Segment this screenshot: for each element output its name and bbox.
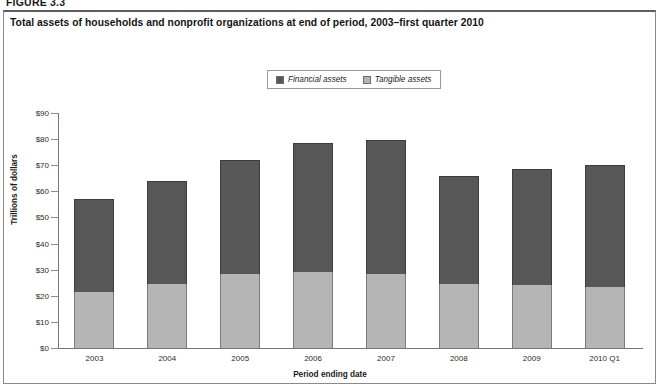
chart-title: Total assets of households and nonprofit… <box>10 17 484 28</box>
x-axis-tick-label: 2006 <box>304 354 322 363</box>
bar-segment-tangible-assets <box>366 274 406 348</box>
y-axis-tick-labels: $90$80$70$60$50$40$30$20$10$0 <box>0 0 49 388</box>
y-axis-tick <box>51 113 58 114</box>
bar-segment-financial-assets <box>74 199 114 292</box>
bar-group <box>74 199 114 348</box>
bar-segment-tangible-assets <box>585 287 625 348</box>
bar-segment-financial-assets <box>147 181 187 284</box>
x-axis-tick-label: 2008 <box>450 354 468 363</box>
bar-group <box>585 165 625 348</box>
bar-group <box>147 181 187 348</box>
legend-swatch-tangible-assets <box>363 76 371 84</box>
bar-group <box>366 140 406 348</box>
bar-group <box>220 160 260 348</box>
y-axis-tick <box>51 139 58 140</box>
y-axis-tick <box>51 270 58 271</box>
y-axis-tick <box>51 191 58 192</box>
plot-area <box>58 113 641 348</box>
bar-segment-financial-assets <box>293 143 333 272</box>
legend-label-tangible-assets: Tangible assets <box>375 75 432 84</box>
bar-segment-tangible-assets <box>439 284 479 348</box>
y-axis-tick-label: $0 <box>3 344 49 353</box>
bar-group <box>512 169 552 348</box>
x-axis-tick-label: 2004 <box>158 354 176 363</box>
legend-entry-financial-assets: Financial assets <box>276 75 347 84</box>
bar-segment-tangible-assets <box>74 292 114 348</box>
bar-segment-tangible-assets <box>512 285 552 348</box>
chart-legend: Financial assets Tangible assets <box>267 70 441 89</box>
bar-segment-financial-assets <box>366 140 406 273</box>
bar-group <box>439 176 479 348</box>
y-axis-tick <box>51 348 58 349</box>
y-axis-tick-label: $30 <box>3 265 49 274</box>
legend-label-financial-assets: Financial assets <box>288 75 347 84</box>
x-axis-tick-label: 2007 <box>377 354 395 363</box>
bar-segment-tangible-assets <box>147 284 187 348</box>
x-axis-tick-label: 2005 <box>231 354 249 363</box>
bar-segment-tangible-assets <box>293 272 333 348</box>
x-axis-tick-label: 2009 <box>523 354 541 363</box>
bar-segment-financial-assets <box>512 169 552 285</box>
y-axis-tick <box>51 217 58 218</box>
y-axis-tick-label: $20 <box>3 291 49 300</box>
legend-swatch-financial-assets <box>276 76 284 84</box>
y-axis-tick <box>51 244 58 245</box>
y-axis-tick <box>51 296 58 297</box>
y-axis-tick <box>51 322 58 323</box>
legend-entry-tangible-assets: Tangible assets <box>363 75 432 84</box>
x-axis-tick-label: 2010 Q1 <box>589 354 620 363</box>
bar-group <box>293 143 333 348</box>
y-axis-tick <box>51 165 58 166</box>
x-axis-tick-label: 2003 <box>86 354 104 363</box>
x-axis-title: Period ending date <box>0 370 660 379</box>
y-axis-tick-label: $90 <box>3 109 49 118</box>
bar-segment-financial-assets <box>439 176 479 284</box>
bar-segment-tangible-assets <box>220 274 260 348</box>
bar-segment-financial-assets <box>585 165 625 286</box>
y-axis-tick-label: $10 <box>3 317 49 326</box>
bar-segment-financial-assets <box>220 160 260 274</box>
x-axis-line <box>58 348 643 349</box>
y-axis-title: Trillions of dollars <box>10 130 19 250</box>
